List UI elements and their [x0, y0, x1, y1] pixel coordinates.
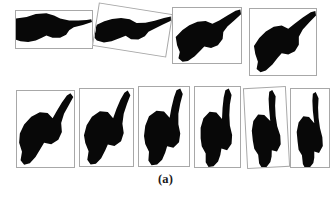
hand-silhouette-image-2 — [93, 4, 172, 57]
pointing-hand-silhouette — [201, 89, 233, 167]
hand-silhouette-panel-4 — [249, 8, 317, 76]
pointing-hand-silhouette — [176, 9, 241, 61]
hand-silhouette-panel-7 — [138, 86, 190, 167]
hand-silhouette-panel-9 — [243, 86, 290, 169]
hand-silhouette-panel-1 — [15, 10, 93, 49]
hand-silhouette-image-7 — [139, 87, 189, 166]
hand-silhouette-panel-5 — [16, 90, 75, 168]
hand-silhouette-image-5 — [17, 91, 74, 167]
hand-silhouette-image-6 — [80, 89, 133, 166]
hand-silhouette-image-3 — [173, 8, 241, 63]
hand-silhouette-image-10 — [291, 89, 329, 167]
hand-silhouette-panel-6 — [79, 88, 134, 167]
hand-silhouette-panel-3 — [172, 7, 242, 64]
pointing-hand-silhouette — [16, 13, 92, 42]
pointing-hand-silhouette — [254, 11, 316, 72]
hand-silhouette-image-9 — [244, 87, 289, 168]
pointing-hand-silhouette — [297, 92, 323, 167]
hand-silhouette-panel-2 — [92, 2, 173, 57]
pointing-hand-silhouette — [250, 90, 282, 168]
figure-caption: (a) — [0, 172, 331, 187]
hand-silhouette-image-4 — [250, 9, 316, 75]
hand-silhouette-panel-8 — [194, 86, 241, 168]
hand-silhouette-image-8 — [195, 87, 240, 167]
hand-silhouette-panel-10 — [290, 88, 330, 168]
hand-silhouette-image-1 — [16, 11, 92, 48]
pointing-hand-silhouette — [84, 91, 130, 165]
pointing-hand-silhouette — [144, 89, 183, 166]
pointing-hand-silhouette — [94, 5, 172, 52]
pointing-hand-silhouette — [19, 93, 73, 164]
figure-panel-grid — [0, 0, 331, 199]
